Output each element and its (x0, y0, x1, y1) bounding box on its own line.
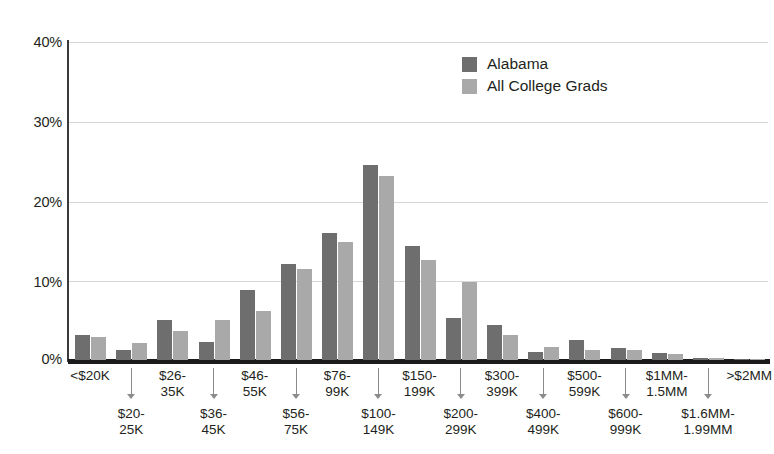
x-axis-label-line: 399K (469, 384, 535, 400)
bar (116, 350, 131, 360)
bar (405, 246, 420, 360)
bar (297, 269, 312, 360)
x-axis-label-line: $56- (263, 406, 329, 422)
x-axis-label: $100-149K (345, 406, 411, 437)
bar (627, 350, 642, 360)
bar (215, 320, 230, 360)
bar-group (360, 42, 401, 360)
label-pointer-arrow-icon (538, 368, 548, 399)
bar (240, 290, 255, 360)
x-axis-label-line: $400- (510, 406, 576, 422)
x-axis-label-line: $300- (469, 368, 535, 384)
bar (363, 165, 378, 360)
legend-swatch-icon (462, 57, 477, 72)
x-axis-label: $20-25K (98, 406, 164, 437)
x-axis-label-line: <$20K (57, 368, 123, 384)
x-axis-label-line: 99K (304, 384, 370, 400)
x-axis-label: >$2MM (716, 368, 774, 384)
bar-group (72, 42, 113, 360)
x-axis-label-line: 299K (428, 422, 494, 438)
bar (75, 335, 90, 360)
bar-group (278, 42, 319, 360)
label-pointer-arrow-icon (456, 368, 466, 399)
x-axis-label: $1MM-1.5MM (634, 368, 700, 399)
bar (421, 260, 436, 360)
x-axis-label: $46-55K (222, 368, 288, 399)
x-axis-label-line: 499K (510, 422, 576, 438)
label-pointer-arrow-icon (126, 368, 136, 399)
x-axis-label: $36-45K (181, 406, 247, 437)
label-pointer-arrow-icon (291, 368, 301, 399)
bar (173, 331, 188, 360)
y-axis-tick-40: 40% (14, 34, 62, 50)
bar-group (237, 42, 278, 360)
bar (569, 340, 584, 360)
bar (585, 350, 600, 360)
x-axis-label-line: $1MM- (634, 368, 700, 384)
x-axis-label-line: $36- (181, 406, 247, 422)
x-axis-label-line: $1.6MM- (675, 406, 741, 422)
x-axis-label: $200-299K (428, 406, 494, 437)
x-axis-label: <$20K (57, 368, 123, 384)
bar (462, 282, 477, 360)
bar (281, 264, 296, 360)
x-axis-label: $76-99K (304, 368, 370, 399)
x-axis-label-line: $150- (387, 368, 453, 384)
x-axis-label-line: 199K (387, 384, 453, 400)
bar (487, 325, 502, 360)
bar (503, 335, 518, 360)
bar (446, 318, 461, 360)
x-axis-label-line: $600- (593, 406, 659, 422)
bar (322, 233, 337, 360)
legend-item-all-college-grads: All College Grads (462, 77, 608, 95)
y-axis-tick-30: 30% (14, 114, 62, 130)
x-axis-label-line: 45K (181, 422, 247, 438)
x-axis-label-line: $200- (428, 406, 494, 422)
x-axis-label: $26-35K (139, 368, 205, 399)
x-axis-label-line: $20- (98, 406, 164, 422)
x-axis-label-line: 75K (263, 422, 329, 438)
x-axis-label-line: >$2MM (716, 368, 774, 384)
x-axis-label-line: 599K (551, 384, 617, 400)
legend-label-alabama: Alabama (487, 55, 548, 73)
legend-item-alabama: Alabama (462, 55, 608, 73)
x-axis-label-line: $100- (345, 406, 411, 422)
bar (132, 343, 147, 360)
x-axis-label: $150-199K (387, 368, 453, 399)
x-axis-label: $300-399K (469, 368, 535, 399)
x-axis-label: $400-499K (510, 406, 576, 437)
x-axis-label-line: 55K (222, 384, 288, 400)
x-axis-label-line: $26- (139, 368, 205, 384)
bar (199, 342, 214, 360)
x-axis-label-line: 149K (345, 422, 411, 438)
x-axis-label-line: 35K (139, 384, 205, 400)
y-axis-tick-10: 10% (14, 274, 62, 290)
bar (611, 348, 626, 360)
bar-group (154, 42, 195, 360)
bar-group (608, 42, 649, 360)
bar (91, 337, 106, 360)
x-axis-label-line: 25K (98, 422, 164, 438)
bar-group (319, 42, 360, 360)
bar (157, 320, 172, 360)
legend-swatch-icon (462, 79, 477, 94)
bar (652, 353, 667, 360)
income-distribution-bar-chart: 40% 30% 20% 10% 0% Alabama All College G… (0, 0, 774, 454)
x-axis-label: $500-599K (551, 368, 617, 399)
bar (256, 311, 271, 360)
x-axis-label-line: $46- (222, 368, 288, 384)
bar-group (731, 42, 772, 360)
y-axis-tick-20: 20% (14, 194, 62, 210)
x-axis-tick-labels: <$20K$20-25K$26-35K$36-45K$46-55K$56-75K… (0, 360, 774, 454)
x-axis-label-line: $76- (304, 368, 370, 384)
bar-group (649, 42, 690, 360)
label-pointer-arrow-icon (373, 368, 383, 399)
label-pointer-arrow-icon (703, 368, 713, 399)
bar (544, 347, 559, 360)
x-axis-label: $1.6MM-1.99MM (675, 406, 741, 437)
x-axis-label: $600-999K (593, 406, 659, 437)
bar (379, 176, 394, 360)
legend-label-all-college-grads: All College Grads (487, 77, 608, 95)
bar (528, 352, 543, 360)
bar-groups (68, 42, 770, 360)
